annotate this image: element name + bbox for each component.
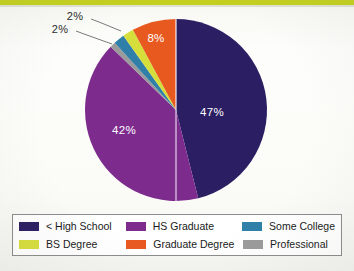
legend-swatch-icon: [19, 222, 39, 231]
slice-label-hs-graduate: 42%: [112, 124, 136, 136]
callout-line-some-college: [76, 31, 112, 44]
callout-label-some-college: 2%: [52, 23, 69, 35]
slice-label-graduate-degree: 8%: [147, 32, 164, 44]
legend-swatch-icon: [19, 240, 39, 249]
legend-label: Graduate Degree: [153, 238, 234, 250]
legend-label: HS Graduate: [153, 220, 214, 232]
legend-item-hs-graduate[interactable]: HS Graduate: [126, 217, 242, 235]
pie-chart: 47% 42% 8% 2% 2%: [0, 6, 354, 210]
legend-item-graduate-degree[interactable]: Graduate Degree: [126, 235, 243, 253]
callout-label-bs-degree: 2%: [67, 10, 84, 22]
legend-swatch-icon: [242, 222, 262, 231]
legend-swatch-icon: [126, 240, 146, 249]
slice-label-less-than-high-school: 47%: [200, 106, 224, 118]
legend-label: BS Degree: [46, 238, 97, 250]
legend-item-some-college[interactable]: Some College: [242, 217, 335, 235]
legend-swatch-icon: [126, 222, 146, 231]
legend-swatch-icon: [243, 240, 263, 249]
legend-label: Some College: [269, 220, 335, 232]
pie-chart-svg: 47% 42% 8% 2% 2%: [0, 6, 354, 210]
legend-row: BS Degree Graduate Degree Professional: [19, 235, 335, 253]
callout-line-bs-degree: [91, 19, 121, 31]
legend-row: < High School HS Graduate Some College: [19, 217, 335, 235]
legend-item-less-than-high-school[interactable]: < High School: [19, 217, 126, 235]
legend-item-professional[interactable]: Professional: [243, 235, 335, 253]
chart-legend: < High School HS Graduate Some College B…: [12, 214, 342, 256]
legend-label: < High School: [46, 220, 112, 232]
legend-item-bs-degree[interactable]: BS Degree: [19, 235, 126, 253]
legend-label: Professional: [270, 238, 328, 250]
